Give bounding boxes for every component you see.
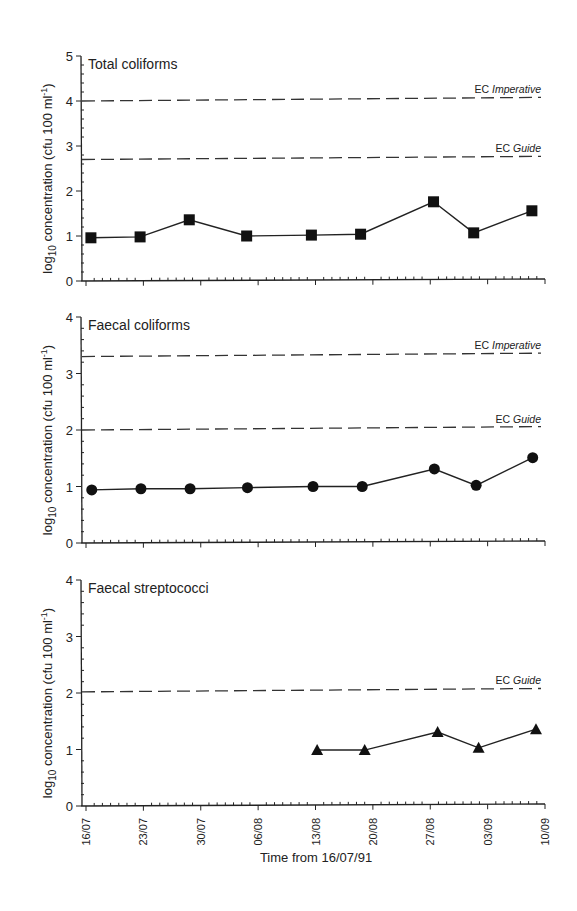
y-tick-label: 4 — [66, 573, 73, 588]
square-marker — [355, 229, 366, 240]
circle-marker — [185, 483, 196, 494]
triangle-marker — [432, 726, 444, 737]
square-marker — [135, 231, 146, 242]
y-tick-label: 3 — [66, 367, 73, 382]
y-axis-label: log10 concentration (cfu 100 ml-1) — [39, 608, 58, 798]
ylabel-subscript: 10 — [47, 245, 58, 257]
square-marker — [184, 214, 195, 225]
y-tick-label: 1 — [66, 229, 73, 244]
circle-marker — [242, 482, 253, 493]
ref-label-prefix: EC — [495, 413, 513, 425]
y-tick-label: 4 — [66, 310, 73, 325]
circle-marker — [471, 480, 482, 491]
x-axis — [81, 541, 545, 543]
ylabel-superscript: -1 — [39, 88, 49, 96]
ylabel-text: concentration (cfu 100 ml — [40, 357, 55, 507]
x-tick-label: 30/07 — [195, 818, 207, 846]
ylabel-close: ) — [40, 608, 55, 612]
ref-label-italic: Guide — [513, 674, 541, 686]
ref-label-prefix: EC — [495, 674, 513, 686]
square-marker — [241, 231, 252, 242]
ref-label-prefix: EC — [495, 142, 513, 154]
square-marker — [306, 230, 317, 241]
ylabel-text: concentration (cfu 100 ml — [40, 620, 55, 770]
data-series-line — [317, 729, 536, 750]
ylabel-superscript: -1 — [39, 349, 49, 357]
ref-label-italic: Imperative — [492, 83, 541, 95]
triangle-marker — [530, 723, 542, 734]
ref-label-italic: Guide — [513, 142, 541, 154]
ylabel-text: concentration (cfu 100 ml — [40, 96, 55, 246]
x-tick-label: 06/08 — [252, 818, 264, 846]
x-axis — [81, 804, 545, 806]
ylabel-subscript: 10 — [47, 769, 58, 781]
ylabel-log: log — [40, 518, 55, 535]
y-axis-label: log10 concentration (cfu 100 ml-1) — [39, 83, 58, 273]
triangle-marker — [473, 742, 485, 753]
circle-marker — [86, 484, 97, 495]
x-tick-label: 20/08 — [367, 818, 379, 846]
reference-line-label: EC Guide — [495, 142, 541, 154]
y-tick-label: 1 — [66, 743, 73, 758]
ylabel-log: log — [40, 781, 55, 798]
ref-label-italic: Imperative — [492, 339, 541, 351]
y-tick-label: 2 — [66, 184, 73, 199]
y-tick-label: 0 — [66, 799, 73, 814]
y-tick-label: 4 — [66, 94, 73, 109]
ylabel-superscript: -1 — [39, 612, 49, 620]
panel-faecal-coliforms: 01234Faecal coliformsEC ImperativeEC Gui… — [39, 310, 545, 551]
y-tick-label: 2 — [66, 686, 73, 701]
panel-faecal-streptococci: 01234Faecal streptococciEC Guidelog10 co… — [39, 573, 545, 814]
reference-line-imperative — [82, 353, 541, 356]
circle-marker — [308, 481, 319, 492]
ylabel-log: log — [40, 256, 55, 273]
y-tick-label: 1 — [66, 480, 73, 495]
x-tick-label: 23/07 — [137, 818, 149, 846]
x-axis-title: Time from 16/07/91 — [260, 850, 372, 865]
y-tick-label: 2 — [66, 423, 73, 438]
x-tick-label: 13/08 — [310, 818, 322, 846]
square-marker — [468, 227, 479, 238]
y-tick-label: 0 — [66, 274, 73, 289]
circle-marker — [357, 481, 368, 492]
square-marker — [85, 232, 96, 243]
circle-marker — [135, 483, 146, 494]
reference-line-guide — [82, 156, 541, 159]
panel-title: Faecal streptococci — [88, 580, 209, 596]
reference-line-label: EC Guide — [495, 674, 541, 686]
ref-label-prefix: EC — [474, 83, 492, 95]
y-axis — [81, 56, 82, 281]
reference-line-imperative — [82, 97, 541, 101]
circle-marker — [527, 452, 538, 463]
circle-marker — [429, 463, 440, 474]
ylabel-close: ) — [40, 345, 55, 349]
y-tick-label: 3 — [66, 139, 73, 154]
reference-line-label: EC Imperative — [474, 83, 541, 95]
ylabel-close: ) — [40, 83, 55, 87]
x-tick-label: 10/09 — [539, 818, 551, 846]
square-marker — [526, 205, 537, 216]
x-tick-label: 03/09 — [482, 818, 494, 846]
y-tick-label: 0 — [66, 536, 73, 551]
reference-line-label: EC Guide — [495, 413, 541, 425]
x-axis — [81, 279, 545, 281]
ylabel-subscript: 10 — [47, 506, 58, 518]
panel-title: Faecal coliforms — [88, 317, 190, 333]
ref-label-prefix: EC — [474, 339, 492, 351]
bacteria-concentration-chart: 012345Total coliformsEC ImperativeEC Gui… — [0, 0, 577, 911]
panel-total-coliforms: 012345Total coliformsEC ImperativeEC Gui… — [39, 49, 545, 289]
reference-line-guide — [82, 688, 541, 691]
ref-label-italic: Guide — [513, 413, 541, 425]
square-marker — [428, 196, 439, 207]
panel-title: Total coliforms — [88, 56, 177, 72]
y-axis-label: log10 concentration (cfu 100 ml-1) — [39, 345, 58, 535]
reference-line-guide — [82, 427, 541, 430]
x-tick-label: 27/08 — [424, 818, 436, 846]
y-tick-label: 3 — [66, 630, 73, 645]
y-tick-label: 5 — [66, 49, 73, 64]
reference-line-label: EC Imperative — [474, 339, 541, 351]
x-tick-label: 16/07 — [80, 818, 92, 846]
